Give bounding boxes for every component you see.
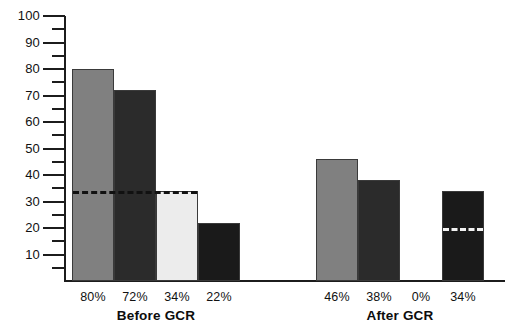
y-tick-label: 70: [2, 89, 40, 102]
y-tick-minor: [52, 240, 65, 242]
y-tick-major: [43, 15, 65, 17]
category-label: 34%: [156, 291, 198, 304]
bar-chart: 100908070605040302010 80%72%34%22%Before…: [0, 0, 513, 329]
y-tick-minor: [52, 55, 65, 57]
bar: [358, 180, 400, 281]
y-tick-minor: [52, 161, 65, 163]
y-tick-label: 10: [2, 248, 40, 261]
y-tick-major: [43, 254, 65, 256]
bar: [114, 90, 156, 281]
y-tick-label: 100: [2, 9, 40, 22]
y-tick-minor: [52, 134, 65, 136]
bar: [316, 159, 358, 281]
y-tick-minor: [52, 267, 65, 269]
category-label: 46%: [316, 291, 358, 304]
y-tick-major: [43, 68, 65, 70]
bar: [72, 69, 114, 281]
y-tick-label: 50: [2, 142, 40, 155]
y-tick-label: 80: [2, 62, 40, 75]
y-tick-minor: [52, 81, 65, 83]
y-tick-label: 40: [2, 168, 40, 181]
group-label: After GCR: [316, 309, 484, 323]
y-tick-major: [43, 148, 65, 150]
y-tick-label: 30: [2, 195, 40, 208]
category-label: 72%: [114, 291, 156, 304]
y-tick-label: 90: [2, 36, 40, 49]
y-tick-major: [43, 174, 65, 176]
category-label: 0%: [400, 291, 442, 304]
y-tick-label: 20: [2, 221, 40, 234]
y-tick-minor: [52, 28, 65, 30]
y-tick-minor: [52, 108, 65, 110]
y-tick-major: [43, 121, 65, 123]
reference-line: [73, 191, 197, 194]
category-label: 22%: [198, 291, 240, 304]
bar: [156, 191, 198, 281]
bar: [442, 191, 484, 281]
y-tick-major: [43, 95, 65, 97]
group-label: Before GCR: [72, 309, 240, 323]
bar: [198, 223, 240, 281]
y-tick-major: [43, 42, 65, 44]
reference-line: [443, 228, 483, 231]
y-tick-minor: [52, 214, 65, 216]
category-label: 34%: [442, 291, 484, 304]
y-tick-major: [43, 227, 65, 229]
category-label: 80%: [72, 291, 114, 304]
y-tick-minor: [52, 187, 65, 189]
category-label: 38%: [358, 291, 400, 304]
y-tick-major: [43, 201, 65, 203]
y-tick-label: 60: [2, 115, 40, 128]
